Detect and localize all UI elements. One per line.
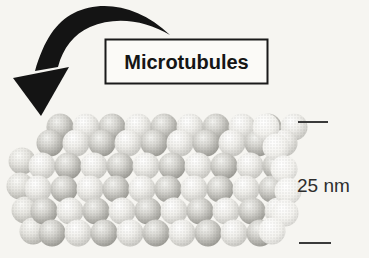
halftone-overlay <box>219 130 246 157</box>
halftone-overlay <box>29 153 56 180</box>
halftone-overlay <box>167 130 194 157</box>
microtubule-figure: Microtubules 25 nm <box>0 0 369 258</box>
halftone-overlay <box>159 153 186 180</box>
halftone-overlay <box>81 153 108 180</box>
halftone-overlay <box>133 153 160 180</box>
halftone-overlay <box>117 220 144 247</box>
halftone-overlay <box>55 153 82 180</box>
figure-canvas: Microtubules 25 nm <box>0 0 369 258</box>
label-text: Microtubules <box>124 51 248 73</box>
scale-label: 25 nm <box>297 175 350 196</box>
halftone-overlay <box>89 130 116 157</box>
halftone-overlay <box>37 130 64 157</box>
curved-arrow-head <box>13 67 69 116</box>
halftone-overlay <box>211 153 238 180</box>
sphere-lattice <box>7 114 308 247</box>
halftone-overlay <box>91 220 118 247</box>
microtubule-illustration <box>7 114 308 247</box>
halftone-overlay <box>143 220 170 247</box>
halftone-overlay <box>193 130 220 157</box>
halftone-overlay <box>195 220 222 247</box>
halftone-overlay <box>39 220 66 247</box>
halftone-overlay <box>221 220 248 247</box>
halftone-overlay <box>115 130 142 157</box>
halftone-overlay <box>169 220 196 247</box>
halftone-overlay <box>63 130 90 157</box>
halftone-overlay <box>259 218 286 245</box>
halftone-overlay <box>107 153 134 180</box>
halftone-overlay <box>185 153 212 180</box>
halftone-overlay <box>65 220 92 247</box>
halftone-overlay <box>237 153 264 180</box>
halftone-overlay <box>141 130 168 157</box>
